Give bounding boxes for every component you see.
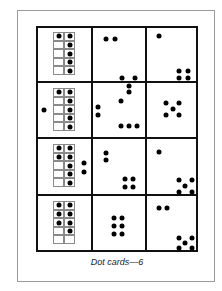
card-dot [183, 184, 188, 189]
ten-frame-cell [53, 49, 64, 58]
card-dot [112, 216, 117, 221]
ten-frame-dot [56, 220, 61, 225]
card-dot [164, 101, 169, 106]
card-dot [104, 37, 109, 42]
ten-frame-cell [53, 227, 64, 236]
row-divider [36, 137, 198, 139]
ten-frame-dot [67, 34, 72, 39]
ten-frame-cell [53, 58, 64, 67]
card-dot [177, 113, 182, 118]
card-dot [190, 190, 195, 195]
ten-frame-cell [53, 105, 64, 114]
ten-frame-dot [67, 68, 72, 73]
card-dot [165, 206, 170, 211]
ten-frame-dot [56, 211, 61, 216]
card-dot [177, 101, 182, 106]
column-divider [145, 26, 147, 252]
card-dot [190, 246, 195, 251]
ten-frame-dot [67, 107, 72, 112]
ten-frame-dot [67, 172, 72, 177]
card-dot [113, 37, 118, 42]
ten-frame-dot [67, 211, 72, 216]
card-dot [119, 124, 124, 129]
ten-frame-dot [67, 98, 72, 103]
ten-frame-dot [67, 90, 72, 95]
card-dot [177, 190, 182, 195]
extra-dot [82, 170, 87, 175]
card-dot [177, 76, 182, 81]
card-dot [127, 124, 132, 129]
card-dot [120, 224, 125, 229]
ten-frame-cell [53, 122, 64, 131]
ten-frame-cell [53, 170, 64, 179]
ten-frame-dot [56, 90, 61, 95]
card-dot [157, 206, 162, 211]
ten-frame-dot [67, 220, 72, 225]
ten-frame-dot [56, 146, 61, 151]
card-dot [190, 236, 195, 241]
card-dot [104, 158, 109, 163]
column-divider [91, 26, 93, 252]
ten-frame-dot [67, 42, 72, 47]
card-dot [120, 76, 125, 81]
card-dot [131, 185, 136, 190]
card-dot [127, 84, 132, 89]
ten-frame-cell [53, 178, 64, 187]
ten-frame-cell [53, 41, 64, 50]
card-dot [131, 177, 136, 182]
ten-frame-cell [53, 66, 64, 75]
card-dot [104, 151, 109, 156]
card-dot [177, 246, 182, 251]
ten-frame-dot [67, 154, 72, 159]
row-divider [36, 194, 198, 196]
card-dot [96, 113, 101, 118]
ten-frame-dot [67, 116, 72, 121]
ten-frame-dot [67, 180, 72, 185]
ten-frame-cell [53, 235, 64, 244]
card-dot [119, 99, 124, 104]
card-dot [164, 113, 169, 118]
ten-frame-dot [67, 51, 72, 56]
ten-frame-dot [56, 154, 61, 159]
card-dot [183, 241, 188, 246]
card-dot [186, 69, 191, 74]
ten-frame-cell [53, 114, 64, 123]
card-dot [135, 124, 140, 129]
ten-frame-dot [67, 163, 72, 168]
ten-frame-dot [67, 124, 72, 129]
ten-frame-dot [56, 34, 61, 39]
card-dot [123, 177, 128, 182]
ten-frame-dot [67, 60, 72, 65]
ten-frame-dot [67, 203, 72, 208]
card-dot [177, 69, 182, 74]
card-dot [112, 232, 117, 237]
card-dot [123, 185, 128, 190]
caption: Dot cards—6 [36, 257, 198, 267]
ten-frame-cell [53, 161, 64, 170]
card-dot [120, 232, 125, 237]
card-dot [112, 224, 117, 229]
card-dot [157, 150, 162, 155]
card-dot [127, 90, 132, 95]
card-dot [96, 105, 101, 110]
ten-frame-dot [67, 229, 72, 234]
card-dot [133, 76, 138, 81]
extra-dot [42, 108, 47, 113]
card-dot [171, 107, 176, 112]
card-dot [177, 236, 182, 241]
card-dot [157, 34, 162, 39]
card-dot [120, 216, 125, 221]
ten-frame-cell [53, 97, 64, 106]
card-dot [190, 178, 195, 183]
ten-frame-cell [64, 235, 75, 244]
card-dot [186, 76, 191, 81]
ten-frame-dot [56, 203, 61, 208]
card-dot [177, 178, 182, 183]
ten-frame-dot [67, 146, 72, 151]
extra-dot [82, 161, 87, 166]
row-divider [36, 81, 198, 83]
